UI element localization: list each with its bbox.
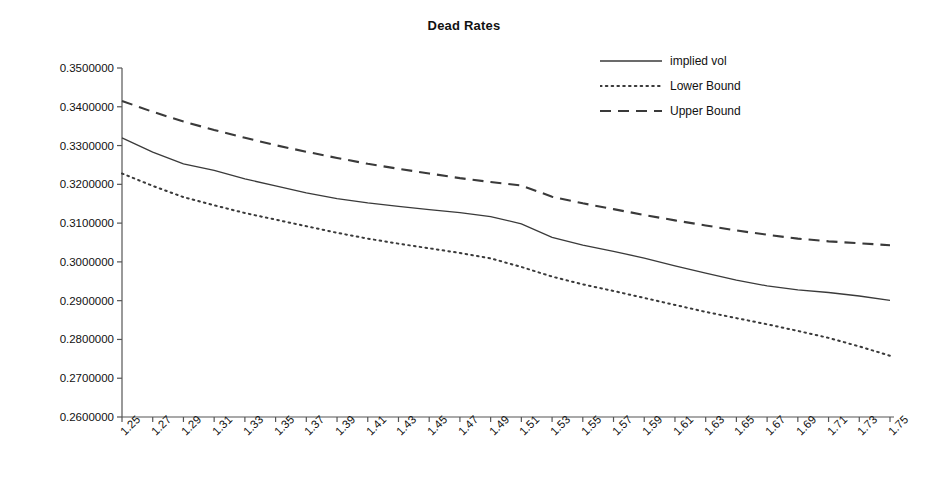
x-tick-label: 1.63 xyxy=(702,413,726,437)
x-tick-label: 1.29 xyxy=(179,413,203,437)
legend-label: Upper Bound xyxy=(670,104,741,118)
legend-item: Lower Bound xyxy=(600,73,810,98)
x-tick-label: 1.51 xyxy=(517,413,541,437)
x-tick-label: 1.45 xyxy=(425,413,449,437)
x-tick-label: 1.53 xyxy=(548,413,572,437)
x-tick-label: 1.55 xyxy=(579,413,603,437)
x-tick-label: 1.31 xyxy=(210,413,234,437)
x-tick-label: 1.71 xyxy=(825,413,849,437)
legend-line-sample-dashed xyxy=(600,105,662,117)
x-tick-label: 1.37 xyxy=(302,413,326,437)
x-tick-label: 1.35 xyxy=(272,413,296,437)
legend-item: Upper Bound xyxy=(600,98,810,123)
chart-container: Dead Rates 0.35000000.34000000.33000000.… xyxy=(0,0,928,481)
x-tick-label: 1.61 xyxy=(671,413,695,437)
x-tick-label: 1.59 xyxy=(640,413,664,437)
legend-label: implied vol xyxy=(670,54,727,68)
legend-line-sample-solid xyxy=(600,55,662,67)
x-tick-label: 1.49 xyxy=(487,413,511,437)
x-tick-label: 1.65 xyxy=(732,413,756,437)
x-tick-label: 1.67 xyxy=(763,413,787,437)
x-tick-label: 1.75 xyxy=(886,413,910,437)
x-tick-label: 1.73 xyxy=(855,413,879,437)
legend-label: Lower Bound xyxy=(670,79,741,93)
x-tick-label: 1.33 xyxy=(241,413,265,437)
x-tick-label: 1.43 xyxy=(394,413,418,437)
x-tick-label: 1.39 xyxy=(333,413,357,437)
legend-item: implied vol xyxy=(600,48,810,73)
x-tick-label: 1.25 xyxy=(118,413,142,437)
x-tick-label: 1.57 xyxy=(610,413,634,437)
x-tick-label: 1.41 xyxy=(364,413,388,437)
legend-line-sample-dotted xyxy=(600,80,662,92)
chart-legend: implied volLower BoundUpper Bound xyxy=(600,48,810,123)
x-tick-label: 1.27 xyxy=(149,413,173,437)
x-tick-label: 1.69 xyxy=(794,413,818,437)
x-tick-label: 1.47 xyxy=(456,413,480,437)
